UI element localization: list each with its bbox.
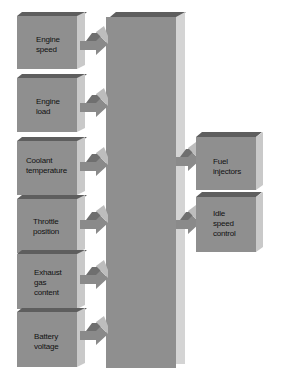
arrow-right-icon — [80, 260, 108, 289]
box-side-face — [256, 192, 263, 252]
arrow-right-icon — [80, 205, 108, 234]
arrow-right-icon — [80, 316, 108, 345]
arrow-right-icon — [80, 147, 108, 176]
arrow-right-icon — [80, 26, 108, 55]
arrow-right-icon — [80, 88, 108, 117]
box-label: Idle speed control — [213, 209, 236, 239]
box-side-face — [256, 132, 263, 190]
engine-control-diagram: Engine speed Engine load Coolant tempera… — [0, 0, 282, 374]
box-label: Fuel injectors — [213, 157, 241, 177]
